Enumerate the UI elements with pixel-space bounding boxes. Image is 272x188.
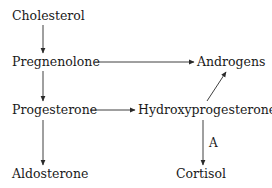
node-aldosterone: Aldosterone — [12, 167, 88, 181]
node-hydroxyprogesterone: Hydroxyprogesterone — [138, 103, 272, 117]
edge-label-a: A — [209, 136, 218, 150]
node-progesterone: Progesterone — [12, 103, 97, 117]
node-cortisol: Cortisol — [176, 167, 226, 181]
steroid-pathway-diagram: Cholesterol Pregnenolone Androgens Proge… — [0, 0, 272, 188]
arrow-hydroxyprogesterone-to-androgens — [207, 72, 226, 101]
arrows-layer — [0, 0, 272, 188]
node-pregnenolone: Pregnenolone — [12, 55, 100, 69]
node-cholesterol: Cholesterol — [12, 9, 85, 23]
node-androgens: Androgens — [197, 55, 265, 69]
